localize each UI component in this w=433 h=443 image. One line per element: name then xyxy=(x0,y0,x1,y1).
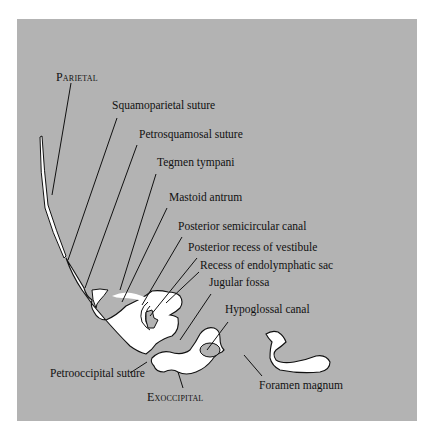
leader-petrosquamosal xyxy=(85,145,137,288)
label-foramen-magnum: Foramen magnum xyxy=(259,380,343,392)
leader-mastoid xyxy=(122,208,167,302)
label-exoccipital: Exoccipital xyxy=(147,391,203,403)
petrous-bone xyxy=(66,258,182,354)
leader-parietal xyxy=(52,83,71,195)
label-squamoparietal-suture: Squamoparietal suture xyxy=(112,100,215,112)
leader-exoccipital xyxy=(178,372,183,388)
leader-tegmen xyxy=(120,174,156,290)
label-mastoid-antrum: Mastoid antrum xyxy=(169,192,242,204)
label-posterior-recess-of-vestibule: Posterior recess of vestibule xyxy=(188,242,317,254)
right-occipital-piece xyxy=(266,331,330,372)
leader-foramen-magnum xyxy=(244,355,262,376)
label-petrooccipital-suture: Petrooccipital suture xyxy=(50,368,145,380)
parietal-bone xyxy=(40,136,66,258)
label-hypoglossal-canal: Hypoglossal canal xyxy=(225,304,310,316)
label-tegmen-tympani: Tegmen tympani xyxy=(157,157,234,169)
label-recess-of-endolymphatic-sac: Recess of endolymphatic sac xyxy=(200,260,333,272)
label-parietal: Parietal xyxy=(56,71,98,83)
label-jugular-fossa: Jugular fossa xyxy=(209,277,269,289)
label-posterior-semicircular-canal: Posterior semicircular canal xyxy=(178,221,306,233)
leader-squamoparietal xyxy=(68,118,117,260)
hypoglossal-canal-shape xyxy=(200,343,220,357)
label-petrosquamosal-suture: Petrosquamosal suture xyxy=(139,129,243,141)
